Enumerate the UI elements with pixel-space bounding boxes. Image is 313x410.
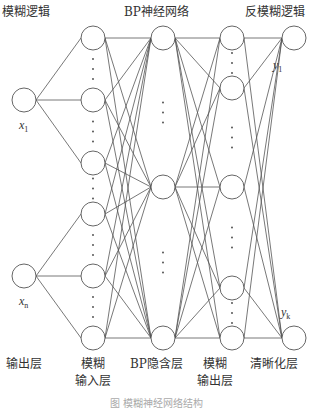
neuron-node (12, 88, 36, 112)
edge (36, 276, 81, 338)
neuron-node (151, 175, 175, 199)
ellipsis-dot (92, 254, 94, 256)
neuron-node (151, 326, 175, 350)
edge (36, 214, 81, 276)
edge (105, 276, 151, 338)
neuron-node (282, 26, 306, 50)
label-fuzzy-output-layer: 模糊 输出层 (194, 356, 236, 390)
ellipsis-dot (231, 62, 233, 64)
edge (175, 88, 220, 338)
label-fuzzy-input-line2: 输入层 (72, 373, 114, 390)
label-output-layer: 输出层 (6, 356, 42, 373)
label-fuzzy-input-line1: 模糊 (72, 356, 114, 373)
ellipsis-dot (92, 141, 94, 143)
edge (105, 38, 151, 100)
ellipsis-dot (231, 72, 233, 74)
ellipsis-dot (162, 252, 164, 254)
neuron-node (12, 264, 36, 288)
edge (105, 163, 151, 187)
ellipsis-dot (92, 316, 94, 318)
ellipsis-dot (92, 306, 94, 308)
edge (105, 214, 151, 338)
ellipsis-dot (231, 137, 233, 139)
edge (105, 38, 151, 276)
ellipsis-dot (92, 198, 94, 200)
neuron-node (81, 264, 105, 288)
variable-xn: xn (19, 294, 28, 310)
label-fuzzy-output-line2: 输出层 (194, 373, 236, 390)
edge (105, 100, 151, 338)
ellipsis-dot (92, 178, 94, 180)
neuron-node (81, 88, 105, 112)
neuron-node (220, 276, 244, 300)
ellipsis-dot (92, 58, 94, 60)
ellipsis-dot (162, 112, 164, 114)
ellipsis-dot (231, 52, 233, 54)
label-fuzzy-output-line1: 模糊 (194, 356, 236, 373)
ellipsis-dot (92, 234, 94, 236)
label-defuzzify-layer: 清晰化层 (250, 356, 298, 373)
neuron-node (220, 76, 244, 100)
title-fuzzy-logic: 模糊逻辑 (2, 2, 50, 19)
ellipsis-dot (92, 188, 94, 190)
neuron-node (81, 151, 105, 175)
edge (244, 38, 282, 288)
neuron-nodes (12, 26, 306, 350)
ellipsis-dot (231, 227, 233, 229)
ellipsis-dot (92, 78, 94, 80)
ellipsis-dot (231, 147, 233, 149)
ellipsis-dot (231, 302, 233, 304)
ellipsis-dot (231, 247, 233, 249)
neuron-node (220, 326, 244, 350)
ellipsis-dot (162, 262, 164, 264)
edge (175, 88, 220, 187)
neuron-node (220, 175, 244, 199)
neuron-node (282, 326, 306, 350)
edge (244, 187, 282, 338)
variable-y1: y1 (273, 58, 282, 74)
neuron-node (220, 26, 244, 50)
title-bp-network: BP神经网络 (124, 2, 189, 19)
ellipsis-dot (92, 131, 94, 133)
ellipsis-dot (162, 272, 164, 274)
variable-yk: yk (281, 305, 290, 321)
neuron-node (151, 26, 175, 50)
title-defuzzy-logic: 反模糊逻辑 (245, 2, 305, 19)
ellipsis-dot (92, 121, 94, 123)
ellipsis-dot (162, 122, 164, 124)
ellipsis-dot (231, 322, 233, 324)
ellipsis-dot (231, 312, 233, 314)
edge (175, 38, 220, 288)
edge (36, 38, 81, 100)
ellipsis-dot (231, 127, 233, 129)
ellipsis-dot (231, 237, 233, 239)
neuron-node (81, 202, 105, 226)
figure-caption: 图 模糊神经网络结构 (0, 395, 313, 410)
ellipsis-dot (162, 102, 164, 104)
label-bp-hidden-layer: BP隐含层 (130, 356, 183, 373)
neuron-node (81, 26, 105, 50)
label-fuzzy-input-layer: 模糊 输入层 (72, 356, 114, 390)
ellipsis-dot (92, 244, 94, 246)
edge (36, 100, 81, 163)
edge (175, 187, 220, 288)
ellipsis-dot (92, 296, 94, 298)
edge (244, 88, 282, 338)
variable-x1: x1 (19, 118, 28, 134)
ellipsis-dot (92, 68, 94, 70)
neuron-node (81, 326, 105, 350)
